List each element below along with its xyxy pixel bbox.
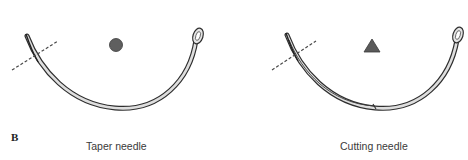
taper-section-line xyxy=(12,41,58,70)
taper-needle-caption: Taper needle xyxy=(86,140,147,152)
cutting-needle xyxy=(272,26,465,109)
taper-needle xyxy=(12,27,205,108)
figure-canvas: B Taper needle Cutting needle xyxy=(0,0,468,160)
cutting-needle-caption: Cutting needle xyxy=(340,140,408,152)
taper-cross-section-circle-icon xyxy=(110,39,123,52)
needle-diagram xyxy=(0,0,468,160)
panel-label: B xyxy=(11,131,18,143)
cutting-cross-section-triangle-icon xyxy=(364,39,380,52)
